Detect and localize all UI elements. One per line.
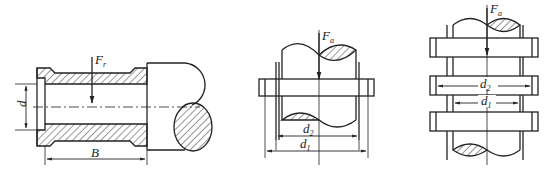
force-label-radial: Fr (94, 52, 107, 69)
bushing-lower-wall (37, 124, 147, 146)
dim-label-d1: d1 (300, 136, 311, 153)
bearing-diagrams: Fr d B Fa d2 d1 (0, 0, 551, 175)
dim-label-B: B (91, 145, 99, 160)
radial-bearing-panel (15, 57, 212, 165)
force-label-axial-2: Fa (489, 1, 502, 18)
dim-label-d: d (14, 100, 29, 107)
shaft-section (174, 103, 212, 151)
force-label-axial-1: Fa (321, 28, 334, 45)
thrust-single-panel (259, 30, 374, 165)
